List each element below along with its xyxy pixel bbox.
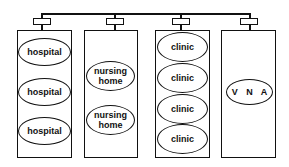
vna-node: V N A xyxy=(226,79,273,105)
clinic-label: clinic xyxy=(171,73,194,83)
connector-node-nursing xyxy=(106,18,124,25)
group-box-nursing-homes xyxy=(84,30,138,158)
hospital-node: hospital xyxy=(18,38,71,66)
connector-node-clinics xyxy=(172,18,190,25)
connector-node-hospitals xyxy=(33,18,51,25)
clinic-label: clinic xyxy=(171,134,194,144)
hospital-label: hospital xyxy=(27,47,62,57)
clinic-node: clinic xyxy=(157,32,208,62)
nursing-home-label: nursing home xyxy=(94,110,127,130)
clinic-label: clinic xyxy=(171,104,194,114)
nursing-home-label: nursing home xyxy=(94,66,127,86)
connector-node-vna xyxy=(240,18,258,25)
clinic-node: clinic xyxy=(157,124,208,154)
network-bus-line xyxy=(41,13,251,15)
hospital-node: hospital xyxy=(18,78,71,106)
vna-label: V N A xyxy=(232,87,271,97)
clinic-node: clinic xyxy=(157,63,208,93)
nursing-home-node: nursing home xyxy=(86,105,135,135)
clinic-node: clinic xyxy=(157,94,208,124)
hospital-node: hospital xyxy=(18,117,71,145)
hospital-label: hospital xyxy=(27,126,62,136)
nursing-home-node: nursing home xyxy=(86,61,135,91)
clinic-label: clinic xyxy=(171,42,194,52)
hospital-label: hospital xyxy=(27,87,62,97)
